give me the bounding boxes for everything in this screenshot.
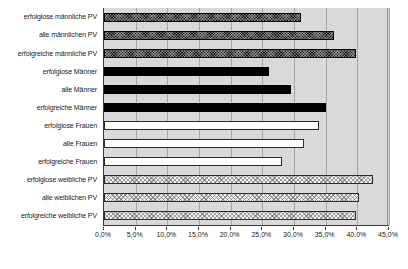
bar (104, 49, 356, 58)
bar (104, 13, 301, 22)
x-axis: 0,0%5,0%10,0%15,0%20,0%25,0%30,0%35,0%40… (103, 227, 389, 247)
category-label: erfolgreiche männliche PV (0, 44, 100, 62)
bar-row (104, 44, 389, 62)
bar-row (104, 207, 389, 225)
category-label: alle männlichen PV (0, 26, 100, 44)
bar-row (104, 171, 389, 189)
bar-row (104, 189, 389, 207)
category-label: erfolglose weibliche PV (0, 171, 100, 189)
bar (104, 211, 356, 220)
category-label: erfolglose Frauen (0, 116, 100, 134)
bar (104, 103, 326, 112)
bar-row (104, 98, 389, 116)
bar-row (104, 8, 389, 26)
bar (104, 85, 291, 94)
x-tick (356, 227, 357, 230)
category-label: erfolglose männliche PV (0, 8, 100, 26)
bar-chart: erfolglose männliche PValle männlichen P… (0, 0, 408, 269)
x-tick-label: 25,0% (251, 231, 271, 238)
bar (104, 31, 334, 40)
x-tick-label: 5,0% (127, 231, 143, 238)
bar-row (104, 116, 389, 134)
x-tick-label: 20,0% (220, 231, 240, 238)
x-tick-label: 40,0% (346, 231, 366, 238)
category-label: alle weiblichen PV (0, 189, 100, 207)
bar-row (104, 153, 389, 171)
bar-row (104, 62, 389, 80)
gridline (389, 8, 390, 225)
bar-row (104, 26, 389, 44)
bar (104, 139, 304, 148)
category-label: erfolgreiche Männer (0, 98, 100, 116)
category-label: erfolgreiche weibliche PV (0, 207, 100, 225)
x-tick-label: 0,0% (95, 231, 111, 238)
x-tick (388, 227, 389, 230)
category-label: alle Männer (0, 80, 100, 98)
x-tick (325, 227, 326, 230)
plot-bottom-border (103, 225, 389, 226)
x-tick (166, 227, 167, 230)
x-tick (293, 227, 294, 230)
x-tick (261, 227, 262, 230)
bar-row (104, 80, 389, 98)
category-label: alle Frauen (0, 135, 100, 153)
bar-series (104, 8, 389, 225)
x-tick (198, 227, 199, 230)
x-tick-label: 45,0% (378, 231, 398, 238)
x-tick (103, 227, 104, 230)
category-axis-labels: erfolglose männliche PValle männlichen P… (0, 8, 100, 225)
x-tick-label: 15,0% (188, 231, 208, 238)
x-tick-label: 35,0% (315, 231, 335, 238)
x-tick (135, 227, 136, 230)
bar (104, 193, 359, 202)
category-label: erfolgreiche Frauen (0, 153, 100, 171)
plot-right-border (387, 8, 388, 225)
bar (104, 175, 373, 184)
bar-row (104, 135, 389, 153)
bar (104, 67, 269, 76)
bar (104, 121, 319, 130)
x-tick (230, 227, 231, 230)
category-label: erfolglose Männer (0, 62, 100, 80)
bar (104, 157, 282, 166)
plot-area (103, 8, 389, 225)
x-tick-label: 30,0% (283, 231, 303, 238)
x-tick-label: 10,0% (156, 231, 176, 238)
